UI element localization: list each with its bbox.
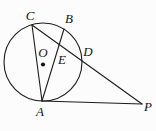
label-B: B [65,11,73,26]
center-dot [41,62,45,66]
label-O: O [38,45,48,60]
secant-CDP [32,25,142,104]
figure-svg: C B O E D A P [0,0,156,131]
label-C: C [26,8,35,23]
circle-O [4,23,82,101]
geometry-figure: C B O E D A P [0,0,156,131]
segment-AP [42,101,142,104]
label-P: P [143,99,152,114]
label-A: A [35,104,44,119]
label-E: E [57,52,66,67]
chord-CA [32,25,42,101]
label-D: D [82,44,93,59]
